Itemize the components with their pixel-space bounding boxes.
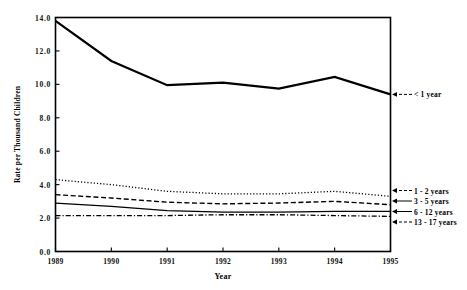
x-tick-0: 1989 — [47, 257, 63, 266]
y-tick-5: 10.0 — [18, 80, 51, 89]
y-tick-0: 0.0 — [18, 247, 51, 256]
data-series-lines — [56, 21, 391, 217]
axis-ticks — [56, 18, 391, 252]
series-line-1 — [56, 180, 391, 197]
series-label-0: < 1 year — [414, 90, 442, 99]
x-tick-6: 1995 — [382, 257, 398, 266]
series-line-4 — [56, 215, 391, 217]
y-tick-1: 2.0 — [18, 214, 51, 223]
series-line-0 — [56, 21, 391, 95]
y-tick-2: 4.0 — [18, 180, 51, 189]
x-tick-3: 1992 — [215, 257, 231, 266]
y-tick-3: 6.0 — [18, 147, 51, 156]
chart-figure: 0.02.04.06.08.010.012.014.0 198919901991… — [0, 0, 467, 290]
series-label-3: 6 - 12 years — [414, 207, 453, 216]
x-tick-2: 1991 — [159, 257, 175, 266]
series-label-1: 1 - 2 years — [414, 186, 449, 195]
y-axis-title: Rate per Thousand Children — [13, 85, 22, 182]
y-tick-6: 12.0 — [18, 46, 51, 55]
series-line-2 — [56, 195, 391, 205]
series-label-2: 3 - 5 years — [414, 197, 449, 206]
y-tick-4: 8.0 — [18, 113, 51, 122]
x-tick-5: 1994 — [327, 257, 343, 266]
plot-frame — [56, 18, 391, 252]
x-axis-title: Year — [214, 272, 231, 281]
x-tick-1: 1990 — [103, 257, 119, 266]
series-label-4: 13 - 17 years — [414, 218, 457, 227]
annotation-arrows — [392, 92, 412, 224]
y-tick-7: 14.0 — [18, 13, 51, 22]
chart-canvas — [0, 0, 467, 290]
x-tick-4: 1993 — [271, 257, 287, 266]
